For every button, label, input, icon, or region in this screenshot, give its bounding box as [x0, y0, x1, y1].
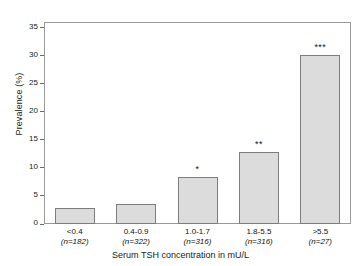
- y-axis-tick-label: 25: [29, 78, 38, 87]
- significance-marker: **: [239, 140, 279, 149]
- x-category-label: 0.4-0.9: [105, 227, 166, 237]
- x-axis-tick-label: 1.8-5.5(n=316): [228, 227, 289, 247]
- y-axis-tick-label: 10: [29, 162, 38, 171]
- x-group-size-label: (n=182): [44, 237, 105, 247]
- x-category-label: >5.5: [290, 227, 351, 237]
- x-category-label: 1.0-1.7: [167, 227, 228, 237]
- bar-group: ***: [300, 55, 340, 224]
- bar: [239, 152, 279, 224]
- bar-group: *: [178, 177, 218, 224]
- bar: [300, 55, 340, 224]
- bar: [178, 177, 218, 224]
- x-axis-tick-label: >5.5(n=27): [290, 227, 351, 247]
- x-axis-tick-label: 0.4-0.9(n=322): [105, 227, 166, 247]
- bars-layer: ******: [44, 22, 351, 224]
- bar-group: **: [239, 152, 279, 224]
- y-axis-tick-label: 0: [34, 218, 38, 227]
- x-axis-tick-label: 1.0-1.7(n=316): [167, 227, 228, 247]
- significance-marker: ***: [300, 43, 340, 52]
- x-category-label: 1.8-5.5: [228, 227, 289, 237]
- y-axis-tick-label: 5: [34, 190, 38, 199]
- y-axis-title: Prevalence (%): [14, 29, 24, 179]
- prevalence-bar-chart-figure: Prevalence (%) 05101520253035 ****** <0.…: [0, 0, 361, 266]
- y-axis-tick-label: 15: [29, 134, 38, 143]
- x-axis-title: Serum TSH concentration in mU/L: [0, 250, 361, 260]
- x-group-size-label: (n=27): [290, 237, 351, 247]
- bar: [55, 208, 95, 224]
- x-group-size-label: (n=316): [167, 237, 228, 247]
- significance-marker: *: [178, 165, 218, 174]
- bar-group: [55, 208, 95, 224]
- x-axis-tick-label: <0.4(n=182): [44, 227, 105, 247]
- bar: [116, 204, 156, 224]
- y-axis-tick-label: 30: [29, 50, 38, 59]
- y-axis-tick-label: 35: [29, 22, 38, 31]
- x-group-size-label: (n=322): [105, 237, 166, 247]
- x-category-label: <0.4: [44, 227, 105, 237]
- y-axis-tick-label: 20: [29, 106, 38, 115]
- x-group-size-label: (n=316): [228, 237, 289, 247]
- bar-group: [116, 204, 156, 224]
